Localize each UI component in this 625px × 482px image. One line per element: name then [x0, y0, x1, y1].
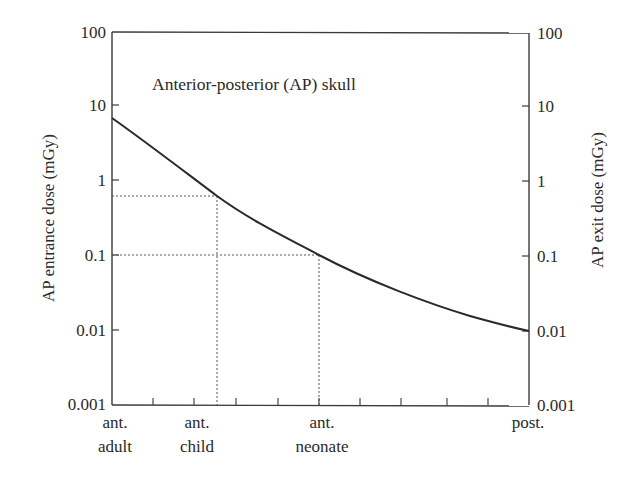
left-tick-0.1: 0.1 — [85, 246, 106, 265]
left-y-tick-labels: 100 10 1 0.1 0.01 0.001 — [68, 23, 106, 414]
left-tick-100: 100 — [81, 23, 107, 42]
x-category-labels: ant. adult ant. child ant. neonate post. — [98, 413, 544, 456]
x-label-child-line2: child — [180, 437, 214, 456]
x-label-adult-line2: adult — [98, 437, 132, 456]
x-label-adult-line1: ant. — [102, 413, 127, 432]
chart-svg: Anterior-posterior (AP) skull 100 10 1 0… — [0, 0, 625, 482]
right-tick-0.1: 0.1 — [537, 247, 558, 266]
right-y-tick-labels: 100 10 1 0.1 0.01 0.001 — [537, 24, 575, 415]
right-tick-100: 100 — [537, 24, 563, 43]
right-tick-0.01: 0.01 — [537, 322, 567, 341]
reference-lines — [112, 196, 319, 405]
right-y-axis-title: AP exit dose (mGy) — [588, 132, 607, 268]
left-tick-0.01: 0.01 — [76, 321, 106, 340]
left-y-axis-title: AP entrance dose (mGy) — [39, 134, 58, 302]
right-tick-10: 10 — [537, 97, 554, 116]
left-tick-0.001: 0.001 — [68, 395, 106, 414]
x-label-post: post. — [512, 413, 545, 432]
left-y-ticks — [112, 105, 119, 330]
x-label-neonate-line2: neonate — [296, 437, 349, 456]
chart-title: Anterior-posterior (AP) skull — [152, 74, 356, 94]
dose-curve — [112, 118, 529, 331]
right-y-ticks — [522, 106, 529, 331]
right-tick-1: 1 — [537, 172, 546, 191]
x-ticks — [153, 398, 488, 405]
left-tick-1: 1 — [98, 171, 107, 190]
x-label-neonate-line1: ant. — [309, 413, 334, 432]
x-label-child-line1: ant. — [184, 413, 209, 432]
left-tick-10: 10 — [89, 96, 106, 115]
